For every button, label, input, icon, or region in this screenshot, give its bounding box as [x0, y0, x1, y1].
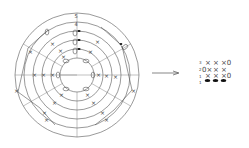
svg-text:×: × — [131, 87, 136, 94]
grid-row-label: 1 — [199, 80, 202, 85]
svg-text:×: × — [85, 91, 90, 98]
svg-text:×: × — [61, 53, 66, 60]
filled-marker-upper-right — [120, 43, 123, 45]
svg-text:×: × — [32, 71, 37, 78]
ring-label-4: 4 — [74, 21, 77, 27]
svg-text:×0: ×0 — [221, 72, 231, 80]
polar-diagram: 5 4 × × × × × × × × × × × × × × × — [0, 0, 249, 148]
svg-text:×: × — [205, 72, 211, 80]
svg-text:×: × — [95, 38, 100, 45]
ring-label-5: 5 — [74, 13, 77, 19]
svg-text:×: × — [44, 116, 49, 123]
svg-text:×: × — [113, 73, 118, 80]
svg-text:×: × — [213, 72, 219, 80]
svg-text:×: × — [104, 116, 109, 123]
grid-row-label: 3 — [199, 60, 202, 65]
svg-text:×: × — [91, 99, 96, 106]
cross-markers: × × × × × × × × × × × × × × × × × × × × … — [14, 38, 136, 123]
svg-text:×: × — [28, 48, 33, 55]
svg-text:×: × — [59, 91, 64, 98]
svg-text:×: × — [50, 71, 55, 78]
grid-row-label: 1 — [199, 74, 202, 79]
envelope-left — [18, 48, 55, 125]
svg-text:×: × — [41, 71, 46, 78]
svg-text:×: × — [42, 109, 47, 116]
svg-text:×: × — [100, 109, 105, 116]
svg-text:×: × — [88, 48, 93, 55]
envelope-right-top — [101, 27, 120, 44]
result-grid: 3 × × ×0 2 0× × × 1 × × ×0 1 — [199, 59, 231, 85]
svg-text:×: × — [52, 99, 57, 106]
svg-text:×: × — [50, 40, 55, 47]
arrow-icon — [152, 71, 179, 75]
top-markers — [73, 30, 81, 54]
svg-text:×: × — [96, 71, 101, 78]
svg-text:×: × — [104, 72, 109, 79]
svg-text:×: × — [14, 87, 19, 94]
